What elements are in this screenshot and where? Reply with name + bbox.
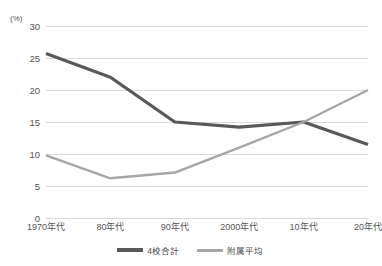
chart-legend: 4校合計附属平均 (0, 244, 380, 256)
gridline (46, 218, 368, 219)
series-line (46, 54, 368, 145)
legend-swatch-icon (117, 248, 143, 252)
legend-swatch-icon (197, 249, 223, 252)
x-axis-tick-label: 90年代 (161, 220, 189, 233)
y-axis-tick-label: 5 (35, 181, 40, 192)
plot-area: 302520151050 (46, 26, 368, 218)
y-axis-tick-label: 20 (29, 85, 40, 96)
x-axis-tick-label: 10年代 (290, 220, 318, 233)
x-axis-tick-label: 20年代 (354, 220, 382, 233)
x-axis-tick-label: 2000年代 (220, 220, 258, 233)
y-axis-tick-label: 25 (29, 53, 40, 64)
legend-label: 4校合計 (147, 244, 179, 256)
y-axis-tick-label: 30 (29, 21, 40, 32)
legend-label: 附属平均 (227, 244, 263, 256)
series-lines (46, 26, 368, 218)
x-axis-ticks: 1970年代80年代90年代2000年代10年代20年代 (46, 220, 368, 236)
legend-item[interactable]: 4校合計 (117, 244, 179, 256)
x-axis-tick-label: 80年代 (96, 220, 124, 233)
y-axis-tick-label: 15 (29, 117, 40, 128)
y-axis-unit-label: (%) (10, 14, 22, 23)
y-axis-tick-label: 10 (29, 149, 40, 160)
series-line (46, 90, 368, 178)
legend-item[interactable]: 附属平均 (197, 244, 263, 256)
x-axis-tick-label: 1970年代 (27, 220, 65, 233)
